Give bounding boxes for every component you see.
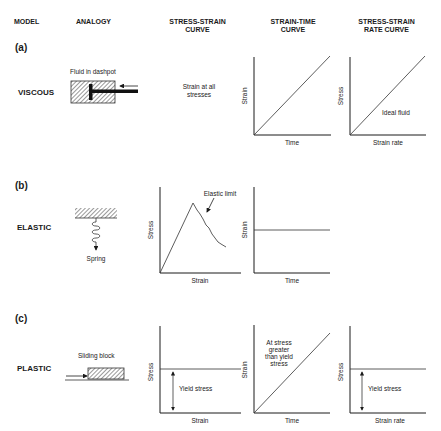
viscous-stress-strain-note-2: stresses — [187, 91, 212, 98]
spring-support — [75, 208, 117, 218]
xlabel: Strain rate — [375, 417, 405, 424]
plastic-strain-time-chart: At stress greater than yield stress Stra… — [241, 325, 330, 424]
note: At stress — [266, 339, 292, 346]
note: Ideal fluid — [382, 109, 410, 116]
xlabel: Strain — [192, 417, 209, 424]
ylabel: Strain — [241, 87, 248, 104]
sliding-block-analogy: Sliding block — [65, 352, 129, 380]
spring-analogy: Spring — [75, 208, 117, 263]
elastic-stress-strain-chart: Elastic limit Stress Strain — [147, 187, 241, 284]
viscous-stress-strain-note-1: Strain at all — [183, 83, 216, 90]
xlabel: Time — [285, 417, 300, 424]
dashpot-piston — [89, 84, 93, 100]
xlabel: Time — [285, 139, 300, 146]
ylabel: Stress — [337, 362, 344, 381]
xlabel: Time — [285, 277, 300, 284]
ylabel: Stress — [147, 362, 154, 381]
spring-coil-icon — [92, 222, 100, 242]
elastic-strain-time-chart: Strain Time — [241, 187, 330, 284]
dashpot-label: Fluid in dashpot — [70, 68, 116, 76]
xlabel: Strain rate — [373, 139, 403, 146]
dashpot-rod — [92, 90, 138, 94]
note: Elastic limit — [204, 190, 237, 197]
ylabel: Stress — [147, 220, 154, 239]
ylabel: Strain — [241, 361, 248, 378]
ylabel: Stress — [337, 86, 344, 105]
xlabel: Strain — [192, 277, 209, 284]
plastic-stress-strain-chart: Yield stress Stress Strain — [147, 326, 241, 424]
note: stress — [270, 360, 288, 367]
dashpot-analogy: Fluid in dashpot — [70, 68, 138, 103]
sliding-block-label: Sliding block — [78, 352, 115, 360]
spring-label: Spring — [87, 255, 106, 263]
sliding-block — [88, 368, 124, 379]
diagram-canvas: Fluid in dashpot Strain at all stresses … — [0, 0, 441, 431]
plastic-rate-chart: Yield stress Stress Strain rate — [337, 326, 426, 424]
ylabel: Strain — [241, 221, 248, 238]
note: Yield stress — [179, 385, 213, 392]
viscous-strain-time-chart: Strain Time — [241, 56, 331, 146]
note: Yield stress — [368, 385, 402, 392]
viscous-rate-chart: Stress Strain rate Ideal fluid — [337, 56, 426, 146]
